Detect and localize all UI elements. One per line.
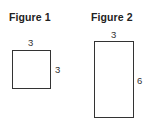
- figure-1-top-label: 3: [28, 37, 33, 48]
- figure-2-rectangle: [94, 41, 134, 118]
- figure-2-top-label: 3: [111, 29, 116, 40]
- figure-1-title: Figure 1: [9, 11, 51, 23]
- figure-2-title: Figure 2: [91, 11, 133, 23]
- figure-1-square: [12, 50, 51, 89]
- figure-1-side-label: 3: [55, 64, 60, 75]
- figure-2-side-label: 6: [137, 75, 142, 86]
